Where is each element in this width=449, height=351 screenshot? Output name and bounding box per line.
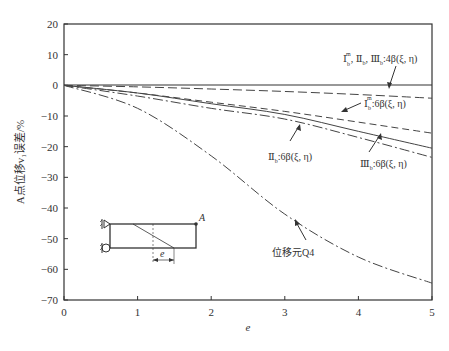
annotation-q4: 位移元Q4 <box>272 219 314 258</box>
point-a-marker <box>194 222 198 226</box>
annotation-I-6beta: Ⅰbm:6β(ξ, η) <box>341 95 406 112</box>
series-line <box>64 85 432 98</box>
y-tick-label: 0 <box>53 79 59 91</box>
svg-text:Ⅲb:6β(ξ, η): Ⅲb:6β(ξ, η) <box>360 158 407 171</box>
y-tick-label: −10 <box>41 110 59 122</box>
y-tick-label: 10 <box>47 49 59 61</box>
x-tick-label: 1 <box>135 306 141 318</box>
annotation-4beta: Ⅰbm, Ⅱb, Ⅲb:4β(ξ, η) <box>343 51 417 89</box>
x-tick-label: 5 <box>429 306 435 318</box>
y-axis-label: A点位移v₁误差/% <box>13 120 26 205</box>
svg-text:Ⅱb:6β(ξ, η): Ⅱb:6β(ξ, η) <box>268 151 312 164</box>
svg-text:位移元Q4: 位移元Q4 <box>272 246 314 258</box>
x-tick-label: 4 <box>356 306 362 318</box>
y-tick-label: −30 <box>41 171 59 183</box>
x-tick-label: 2 <box>208 306 214 318</box>
svg-text:Ⅰbm, Ⅱb, Ⅲb:4β(ξ, η): Ⅰbm, Ⅱb, Ⅲb:4β(ξ, η) <box>343 51 417 67</box>
svg-text:Ⅰbm:6β(ξ, η): Ⅰbm:6β(ξ, η) <box>364 95 406 111</box>
annotation-III-6beta: Ⅲb:6β(ξ, η) <box>360 133 407 171</box>
inset-point-label: A <box>198 212 206 223</box>
y-tick-label: −50 <box>41 233 59 245</box>
series-line <box>64 85 432 148</box>
x-axis-label: e <box>246 321 251 333</box>
y-tick-label: −20 <box>41 141 59 153</box>
y-tick-label: −60 <box>41 263 59 275</box>
series-line <box>64 85 432 283</box>
x-tick-label: 0 <box>61 306 67 318</box>
x-axis-ticks: 012345 <box>61 296 435 318</box>
y-tick-label: −40 <box>41 202 59 214</box>
series-line <box>64 85 432 157</box>
inset-dimension-label: e <box>160 248 165 259</box>
inset-beam-diagram <box>100 219 198 264</box>
x-tick-label: 3 <box>282 306 288 318</box>
series-lines <box>64 85 432 283</box>
y-tick-label: −70 <box>41 294 59 306</box>
series-line <box>64 85 432 133</box>
error-chart: 20100−10−20−30−40−50−60−70 012345 e A点位移… <box>0 0 449 351</box>
y-tick-label: 20 <box>47 18 59 30</box>
annotation-II-6beta: Ⅱb:6β(ξ, η) <box>268 124 312 164</box>
